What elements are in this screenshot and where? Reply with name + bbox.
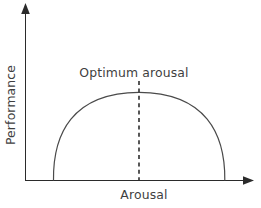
y-axis-arrowhead-icon: [21, 3, 30, 14]
inverted-u-curve-chart: Optimum arousal Arousal Performance: [0, 0, 261, 208]
y-axis-label: Performance: [3, 65, 18, 145]
chart-figure: Optimum arousal Arousal Performance: [0, 0, 261, 208]
x-axis-label: Arousal: [120, 187, 167, 202]
x-axis-arrowhead-icon: [243, 176, 254, 185]
optimum-arousal-label: Optimum arousal: [79, 65, 188, 80]
